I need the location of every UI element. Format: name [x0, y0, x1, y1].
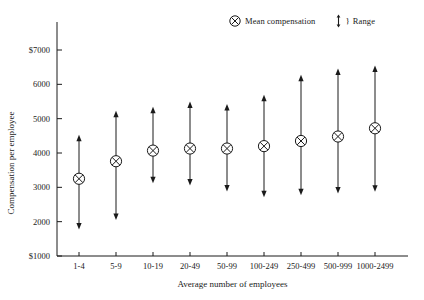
- range-arrow-up: [113, 111, 118, 118]
- legend-brace: }: [345, 16, 349, 26]
- range-marker: [258, 95, 269, 198]
- range-arrow-up: [150, 107, 155, 114]
- x-tick-label: 5-9: [110, 261, 121, 271]
- y-tick-label: 5000: [33, 114, 50, 124]
- y-tick-label: $7000: [29, 45, 50, 55]
- range-marker: [295, 75, 306, 195]
- range-arrow-up: [261, 95, 266, 102]
- y-tick-label: 4000: [33, 148, 50, 158]
- range-arrow-down: [224, 185, 229, 192]
- plot-area: $100020003000400050006000$7000 1-45-910-…: [0, 0, 424, 300]
- range-marker: [147, 107, 158, 184]
- y-tick-label: 6000: [33, 79, 50, 89]
- x-axis-title: Average number of employees: [177, 279, 288, 289]
- legend-item-mean: Mean compensation: [228, 14, 315, 28]
- range-arrow-up: [372, 65, 377, 72]
- range-marker: [369, 65, 380, 191]
- range-marker: [73, 135, 84, 230]
- circled-x-icon: [228, 14, 242, 28]
- x-axis-tick-labels: 1-45-910-1920-4950-99100-249250-499500-9…: [73, 261, 393, 271]
- x-tick-label: 10-19: [143, 261, 163, 271]
- y-tick-label: 3000: [33, 182, 50, 192]
- x-axis-ticks: [79, 252, 375, 256]
- range-marker: [332, 69, 343, 194]
- x-tick-label: 1-4: [73, 261, 85, 271]
- range-marker: [221, 104, 232, 191]
- legend-label-range: Range: [353, 16, 375, 26]
- data-series-group: [73, 65, 380, 229]
- x-tick-label: 50-99: [217, 261, 237, 271]
- range-arrow-up: [335, 69, 340, 76]
- x-tick-label: 1000-2499: [357, 261, 394, 271]
- range-arrow-up: [298, 75, 303, 82]
- range-marker: [110, 111, 121, 220]
- range-arrow-down: [261, 191, 266, 198]
- y-axis-ticks: [57, 50, 62, 256]
- y-tick-label: 2000: [33, 217, 50, 227]
- range-arrow-down: [335, 187, 340, 194]
- range-arrow-up: [187, 102, 192, 109]
- legend-item-range: } Range: [335, 14, 375, 28]
- range-arrow-down: [113, 213, 118, 220]
- x-tick-label: 20-49: [180, 261, 200, 271]
- chart-legend: Mean compensation } Range: [228, 14, 375, 28]
- range-arrow-down: [150, 177, 155, 184]
- x-tick-label: 500-999: [324, 261, 352, 271]
- compensation-range-chart: Mean compensation } Range $1000200030004…: [0, 0, 424, 300]
- range-arrow-down: [76, 223, 81, 230]
- double-arrow-icon: [335, 14, 342, 28]
- range-marker: [184, 102, 195, 186]
- x-tick-label: 250-499: [287, 261, 315, 271]
- y-axis-title: Compensation per employee: [6, 112, 16, 215]
- range-arrow-down: [372, 185, 377, 192]
- range-arrow-up: [224, 104, 229, 111]
- range-arrow-down: [187, 179, 192, 186]
- legend-label-mean: Mean compensation: [245, 16, 315, 26]
- y-tick-label: $1000: [29, 251, 50, 261]
- range-arrow-down: [298, 189, 303, 196]
- y-axis-tick-labels: $100020003000400050006000$7000: [29, 45, 50, 261]
- x-tick-label: 100-249: [250, 261, 278, 271]
- range-arrow-up: [76, 135, 81, 142]
